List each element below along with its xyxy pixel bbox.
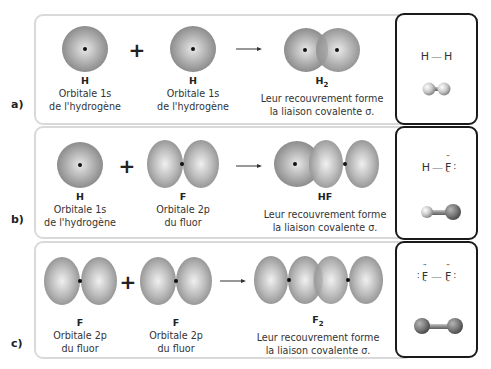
f2-ball-and-stick-icon	[397, 243, 480, 360]
f-2p-orbital-icon	[140, 257, 212, 305]
f2-overlap-orbital-icon	[254, 256, 383, 304]
product-caption: F2 Leur recouvrement forme la liaison co…	[257, 313, 380, 357]
row-c-structure-box: :··F··—··F··:	[395, 241, 478, 358]
f-2p-orbital-icon	[44, 257, 117, 305]
reactant-2-caption: F Orbitale 2p du fluor	[149, 316, 203, 355]
plus-sign: +	[120, 270, 137, 294]
arrow-icon	[220, 279, 246, 283]
reactant-1-caption: F Orbitale 2p du fluor	[53, 316, 107, 355]
